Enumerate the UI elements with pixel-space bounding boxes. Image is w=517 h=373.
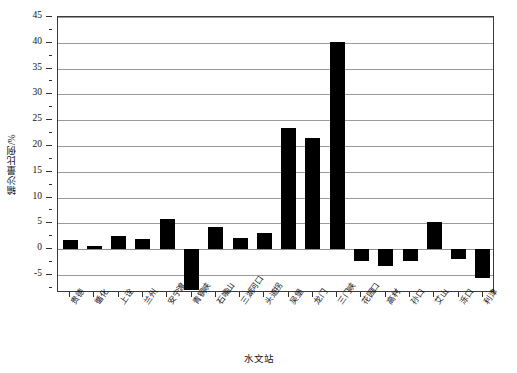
x-axis-title: 水文站 [0,351,517,365]
bar [305,138,320,249]
y-tick-label: 30 [33,87,43,97]
y-tick-minor [49,55,53,56]
y-tick-label: 20 [33,139,43,149]
y-tick-minor [49,235,53,236]
y-tick-major [46,197,52,198]
y-axis-tick-labels: 454035302520151050-5 [20,0,52,373]
bar [63,240,78,249]
y-tick-major [46,222,52,223]
bar [160,219,175,249]
y-tick-label: 40 [33,36,43,46]
y-tick-label: 25 [33,113,43,123]
y-tick-major [46,248,52,249]
bar [378,249,393,266]
bar [208,227,223,249]
bar [403,249,418,261]
y-tick-minor [49,29,53,30]
bar [281,128,296,249]
gridline [58,69,493,70]
gridline [58,198,493,199]
bar [330,42,345,249]
y-tick-major [46,171,52,172]
y-tick-label: 15 [33,165,43,175]
y-tick-major [46,16,52,17]
y-tick-minor [49,184,53,185]
y-tick-major [46,68,52,69]
sediment-ratio-bar-chart: 输沙量比例/% 454035302520151050-5 贵德循化上诠兰州安宁渡… [0,0,517,373]
y-tick-major [46,119,52,120]
bar [427,222,442,249]
y-axis-title: 输沙量比例/% [4,110,20,220]
y-tick-minor [49,209,53,210]
bar [354,249,369,261]
y-tick-label: 5 [37,216,42,226]
y-tick-label: 35 [33,62,43,72]
y-tick-major [46,93,52,94]
y-tick-minor [49,261,53,262]
y-tick-label: 45 [33,10,43,20]
plot-area [57,16,494,292]
y-tick-major [46,42,52,43]
gridline [58,94,493,95]
bar [257,233,272,250]
y-tick-minor [49,106,53,107]
zero-line [58,249,493,250]
y-tick-minor [49,80,53,81]
gridline [58,172,493,173]
y-tick-label: 0 [37,242,42,252]
bar [184,249,199,290]
bar [475,249,490,277]
bar [111,236,126,249]
gridline [58,43,493,44]
y-tick-minor [49,287,53,288]
gridline [58,146,493,147]
gridline [58,275,493,276]
bar [135,239,150,249]
y-tick-minor [49,158,53,159]
y-tick-minor [49,132,53,133]
bar [451,249,466,259]
bar [87,246,102,250]
bar [233,238,248,249]
gridline [58,17,493,18]
y-tick-major [46,274,52,275]
y-tick-label: 10 [33,191,43,201]
gridline [58,120,493,121]
y-tick-label: -5 [34,268,42,278]
y-tick-major [46,145,52,146]
